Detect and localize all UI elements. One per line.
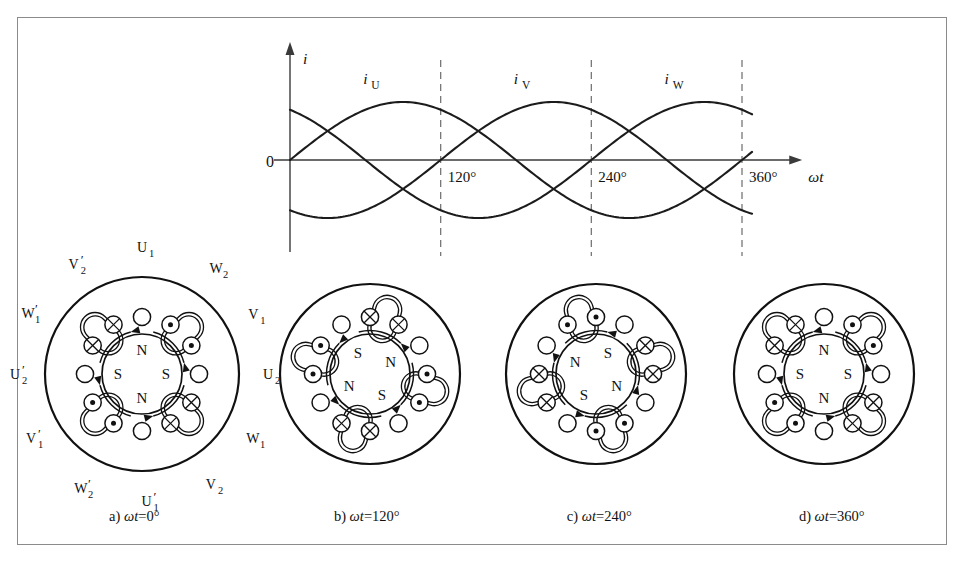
- stator-slot-dot: [411, 394, 428, 411]
- slot-circle: [333, 316, 350, 333]
- pole-letter-S: S: [604, 345, 612, 361]
- coil-group-enclosure: [837, 306, 891, 360]
- x-tick-label-360: 360°: [749, 169, 778, 185]
- current-out-dot-icon: [594, 429, 599, 434]
- svg-text:W: W: [246, 431, 260, 446]
- stator-diagram-b: SNSN: [280, 284, 460, 464]
- svg-text:1: 1: [260, 315, 265, 326]
- svg-text:1: 1: [149, 248, 154, 259]
- caption-row: a) ωt=0°b) ωt=120°c) ωt=240°d) ωt=360°: [18, 508, 948, 542]
- pole-letter-S: S: [844, 366, 852, 382]
- stator-slot-dot: [162, 316, 179, 333]
- caption-a: a) ωt=0°: [18, 508, 251, 542]
- flux-arrowhead: [826, 415, 836, 422]
- stator-slot-dot: [587, 308, 604, 325]
- svg-text:V: V: [26, 431, 36, 446]
- coil-group-enclosure: [155, 387, 209, 441]
- slot-circle: [133, 308, 150, 325]
- pole-letter-S: S: [354, 345, 362, 361]
- stator-slot-none: [815, 422, 832, 439]
- svg-text:U: U: [371, 79, 380, 91]
- caption-value: =0°: [138, 508, 159, 524]
- stator-slot-dot: [616, 415, 633, 432]
- origin-label: 0: [266, 153, 274, 170]
- current-out-dot-icon: [565, 322, 570, 327]
- caption-prefix: c): [567, 508, 582, 524]
- stator-cross-section-row: NSNSU1W2V1U2W1V2U′1W′2V′1U′2W′1V′2SNSNNS…: [18, 254, 948, 504]
- pole-letter-S: S: [162, 366, 170, 382]
- svg-text:i: i: [363, 70, 367, 87]
- stator-slot-cross: [361, 308, 378, 325]
- waveform-svg: 0iωt120°240°360°iUiViW: [18, 18, 948, 258]
- stator-diagram-d: NSNS: [734, 284, 914, 464]
- flux-arrowhead: [144, 415, 154, 422]
- current-out-dot-icon: [622, 421, 627, 426]
- winding-label-W1-prime: W′1: [21, 301, 40, 325]
- stator-svg: NSNSU1W2V1U2W1V2U′1W′2V′1U′2W′1V′2SNSNNS…: [18, 254, 948, 504]
- stator-slot-cross: [865, 394, 882, 411]
- svg-text:V: V: [522, 79, 531, 91]
- svg-text:1: 1: [38, 439, 43, 450]
- svg-text:i: i: [665, 70, 669, 87]
- current-out-dot-icon: [111, 421, 116, 426]
- svg-text:W: W: [673, 79, 684, 91]
- svg-text:2: 2: [22, 375, 27, 386]
- coil-group-enclosure: [756, 306, 810, 360]
- current-out-dot-icon: [850, 322, 855, 327]
- slot-circle: [758, 365, 775, 382]
- stator-slot-none: [872, 365, 889, 382]
- svg-text:U: U: [10, 367, 20, 382]
- caption-variable: ωt: [124, 508, 138, 524]
- svg-text:W: W: [21, 306, 35, 321]
- pole-letter-S: S: [796, 366, 804, 382]
- stator-slot-cross: [644, 365, 661, 382]
- stator-slot-cross: [787, 316, 804, 333]
- caption-b: b) ωt=120°: [251, 508, 484, 542]
- winding-label-V1: V1: [248, 307, 265, 326]
- caption-value: =120°: [364, 508, 400, 524]
- winding-label-V2-prime: V′2: [69, 252, 86, 276]
- stator-slot-dot: [418, 365, 435, 382]
- stator-slot-none: [637, 394, 654, 411]
- curve-label-i_W: iW: [665, 70, 684, 91]
- winding-label-U2: U2: [263, 367, 280, 386]
- stator-slot-cross: [844, 415, 861, 432]
- slot-circle: [815, 422, 832, 439]
- coil-group-enclosure: [74, 306, 128, 360]
- current-out-dot-icon: [772, 400, 777, 405]
- curve-label-i_V: iV: [514, 70, 531, 91]
- caption-variable: ωt: [582, 508, 596, 524]
- slot-circle: [411, 337, 428, 354]
- stator-slot-none: [616, 316, 633, 333]
- stator-slot-cross: [530, 365, 547, 382]
- pole-letter-N: N: [137, 390, 148, 406]
- current-axis-arrowhead: [286, 42, 295, 55]
- stator-slot-cross: [84, 337, 101, 354]
- caption-prefix: a): [109, 508, 124, 524]
- current-out-dot-icon: [417, 400, 422, 405]
- stator-slot-none: [133, 308, 150, 325]
- svg-text:2: 2: [88, 489, 93, 500]
- x-axis-label: ωt: [808, 168, 824, 185]
- caption-value: =360°: [829, 508, 865, 524]
- svg-text:2: 2: [223, 269, 228, 280]
- caption-prefix: b): [334, 508, 350, 524]
- svg-text:U: U: [263, 367, 273, 382]
- flux-arrowhead: [776, 376, 783, 386]
- coil-group-enclosure: [155, 306, 209, 360]
- stator-slot-none: [76, 365, 93, 382]
- winding-label-W1: W1: [246, 431, 265, 450]
- current-out-dot-icon: [311, 372, 316, 377]
- svg-text:1: 1: [35, 314, 40, 325]
- x-tick-label-120: 120°: [448, 169, 477, 185]
- caption-prefix: d): [799, 508, 815, 524]
- stator-slot-none: [390, 415, 407, 432]
- stator-diagram-a: NSNSU1W2V1U2W1V2U′1W′2V′1U′2W′1V′2: [10, 240, 280, 513]
- svg-text:V: V: [206, 477, 216, 492]
- slot-circle: [872, 365, 889, 382]
- pole-letter-N: N: [611, 378, 622, 394]
- winding-label-W2-prime: W′2: [74, 476, 93, 500]
- flux-arrowhead: [94, 376, 101, 386]
- stator-slot-cross: [105, 316, 122, 333]
- slot-circle: [559, 415, 576, 432]
